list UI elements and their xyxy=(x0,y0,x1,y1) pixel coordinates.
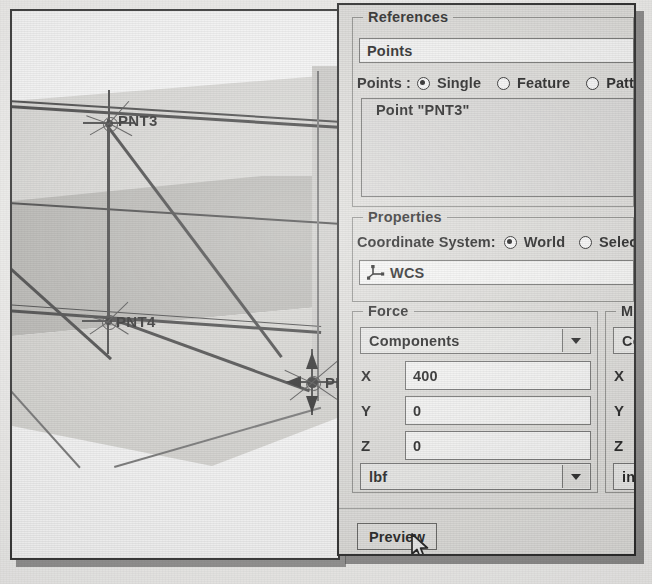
force-z-input[interactable]: 0 xyxy=(405,431,591,460)
radio-pattern[interactable] xyxy=(586,77,599,90)
radio-single[interactable] xyxy=(417,77,430,90)
moment-units-combo[interactable]: in xyxy=(613,463,636,490)
force-arrow-left xyxy=(286,376,301,388)
force-group-title: Force xyxy=(363,303,414,319)
csys-value: WCS xyxy=(390,265,424,281)
scanned-page-background: Translation of Force Step 4: Constraint … xyxy=(0,0,652,584)
points-list-box[interactable]: Point "PNT3" xyxy=(361,98,634,197)
preview-button[interactable]: Preview xyxy=(357,523,437,550)
moment-z-label: Z xyxy=(614,437,623,454)
model-viewport[interactable]: PNT3 PNT4 PNT xyxy=(10,9,340,560)
references-group-title: References xyxy=(363,9,453,25)
moment-y-label: Y xyxy=(614,402,624,419)
moment-type-value: Co xyxy=(622,333,636,349)
radio-feature[interactable] xyxy=(497,77,510,90)
properties-group-title: Properties xyxy=(363,209,447,225)
model-face-lower xyxy=(10,306,340,516)
coordinate-system-icon xyxy=(367,265,385,281)
point-label-pnt3: PNT3 xyxy=(118,112,158,129)
points-type-radio-row: Points : Single Feature Patte xyxy=(357,75,636,91)
radio-pattern-label[interactable]: Patte xyxy=(606,75,636,91)
radio-single-label[interactable]: Single xyxy=(437,75,481,91)
moment-group-title: M xyxy=(616,303,636,319)
force-units-combo[interactable]: lbf xyxy=(360,463,591,490)
moment-x-label: X xyxy=(614,367,624,384)
radio-selected-label[interactable]: Selec xyxy=(599,234,636,250)
points-field[interactable]: Points xyxy=(359,38,634,63)
radio-selected[interactable] xyxy=(579,236,592,249)
force-moment-load-dialog[interactable]: References Points Points : Single Featur… xyxy=(337,3,636,556)
force-x-input[interactable]: 400 xyxy=(405,361,591,390)
list-item[interactable]: Point "PNT3" xyxy=(362,99,633,118)
force-type-dropdown-button[interactable] xyxy=(562,329,589,352)
force-x-label: X xyxy=(361,367,371,384)
points-row-label: Points : xyxy=(357,75,411,91)
force-arrow-down xyxy=(306,396,318,413)
moment-type-combo[interactable]: Co xyxy=(613,327,636,354)
coordinate-system-label: Coordinate System: xyxy=(357,234,496,250)
force-type-value: Components xyxy=(369,333,460,349)
chevron-down-icon xyxy=(571,474,581,480)
csys-field[interactable]: WCS xyxy=(359,260,634,285)
force-type-combo[interactable]: Components xyxy=(360,327,591,354)
footer-separator xyxy=(339,508,636,509)
coordinate-system-radio-row: Coordinate System: World Selec xyxy=(357,234,636,250)
radio-feature-label[interactable]: Feature xyxy=(517,75,570,91)
force-units-value: lbf xyxy=(369,469,387,485)
force-y-input[interactable]: 0 xyxy=(405,396,591,425)
chevron-down-icon xyxy=(571,338,581,344)
point-label-pnt4: PNT4 xyxy=(116,313,156,330)
force-y-label: Y xyxy=(361,402,371,419)
force-units-dropdown-button[interactable] xyxy=(562,465,589,488)
force-z-label: Z xyxy=(361,437,370,454)
radio-world[interactable] xyxy=(504,236,517,249)
radio-world-label[interactable]: World xyxy=(524,234,565,250)
moment-units-value: in xyxy=(622,469,635,485)
force-arrow-up xyxy=(306,352,318,369)
